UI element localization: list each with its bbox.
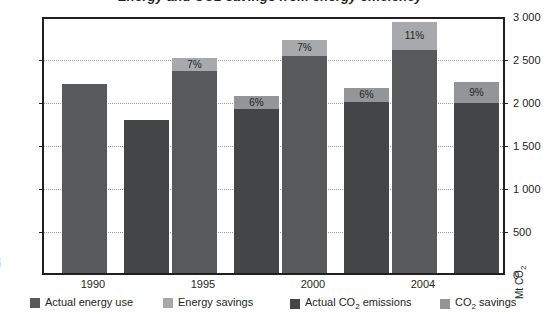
bar-2000-co2[interactable]: 6%	[344, 88, 389, 273]
bar-2000-energy[interactable]: 7%	[282, 40, 327, 273]
tick-left-15	[39, 146, 44, 147]
tick-right-1500	[503, 146, 508, 147]
tick-left-20	[39, 103, 44, 104]
bar-1990-energy[interactable]	[62, 84, 107, 273]
legend-swatch-energy-savings	[163, 298, 173, 308]
legend-label-energy-savings: Energy savings	[178, 297, 253, 308]
legend-item-energy-savings[interactable]: Energy savings	[163, 297, 253, 308]
bar-label-2000-co2-savings: 6%	[344, 88, 389, 102]
y-axis-right-title-sub: 2	[519, 266, 528, 270]
y-right-tick-label-1500: 1 500	[513, 141, 541, 152]
bar-segment-actual-co2	[124, 120, 169, 273]
bar-label-1995-energy-savings: 7%	[172, 58, 217, 71]
bar-segment-actual-co2	[454, 103, 499, 273]
tick-right-1000	[503, 189, 508, 190]
tick-left-25	[39, 60, 44, 61]
bar-segment-actual-energy	[282, 56, 327, 273]
bar-segment-actual-energy	[392, 50, 437, 273]
bar-label-2004-energy-savings: 11%	[392, 22, 437, 50]
plot-area: 7% 6% 7% 6% 11% 9%	[42, 17, 505, 275]
tick-right-2000	[503, 103, 508, 104]
x-tick-label-1990: 1990	[43, 278, 143, 290]
bar-1990-co2[interactable]	[124, 120, 169, 273]
y-right-tick-label-500: 500	[513, 227, 531, 238]
bar-label-1995-co2-savings: 6%	[234, 96, 279, 109]
bar-2004-co2[interactable]: 9%	[454, 82, 499, 273]
bar-segment-actual-energy	[172, 71, 217, 273]
legend-label-actual-co2-emissions: Actual CO2 emissions	[305, 297, 412, 311]
y-right-tick-label-3000: 3 000	[513, 12, 541, 23]
bar-1995-energy[interactable]: 7%	[172, 58, 217, 273]
x-tick-label-2004: 2004	[373, 278, 473, 290]
legend-item-co2-savings[interactable]: CO2 savings	[440, 297, 516, 311]
bar-1995-co2[interactable]: 6%	[234, 96, 279, 273]
y-right-tick-label-2000: 2 000	[513, 98, 541, 109]
x-tick-label-2000: 2000	[263, 278, 363, 290]
legend-swatch-actual-energy-use	[30, 298, 40, 308]
tick-right-2500	[503, 60, 508, 61]
bar-segment-actual-co2	[344, 102, 389, 273]
bar-segment-actual-energy	[62, 84, 107, 273]
bar-segment-actual-co2	[234, 109, 279, 273]
legend-label-actual-energy-use: Actual energy use	[45, 297, 133, 308]
x-tick-label-1995: 1995	[153, 278, 253, 290]
tick-left-10	[39, 189, 44, 190]
y-right-tick-label-2500: 2 500	[513, 55, 541, 66]
chart-figure: 30 25 20 15 10 5 0 EJ 3 000 2 500 2 000 …	[0, 0, 549, 314]
y-axis-left-title: EJ	[0, 256, 2, 268]
y-right-tick-label-1000: 1 000	[513, 184, 541, 195]
legend-item-actual-energy-use[interactable]: Actual energy use	[30, 297, 133, 308]
chart-legend: Actual energy use Energy savings Actual …	[0, 294, 549, 314]
legend-swatch-co2-savings	[440, 299, 450, 309]
legend-swatch-actual-co2-emissions	[290, 299, 300, 309]
legend-label-co2-savings: CO2 savings	[455, 297, 516, 311]
tick-left-5	[39, 232, 44, 233]
legend-item-actual-co2-emissions[interactable]: Actual CO2 emissions	[290, 297, 412, 311]
bar-2004-energy[interactable]: 11%	[392, 22, 437, 273]
bar-label-2000-energy-savings: 7%	[282, 40, 327, 56]
tick-right-500	[503, 232, 508, 233]
bar-label-2004-co2-savings: 9%	[454, 82, 499, 103]
